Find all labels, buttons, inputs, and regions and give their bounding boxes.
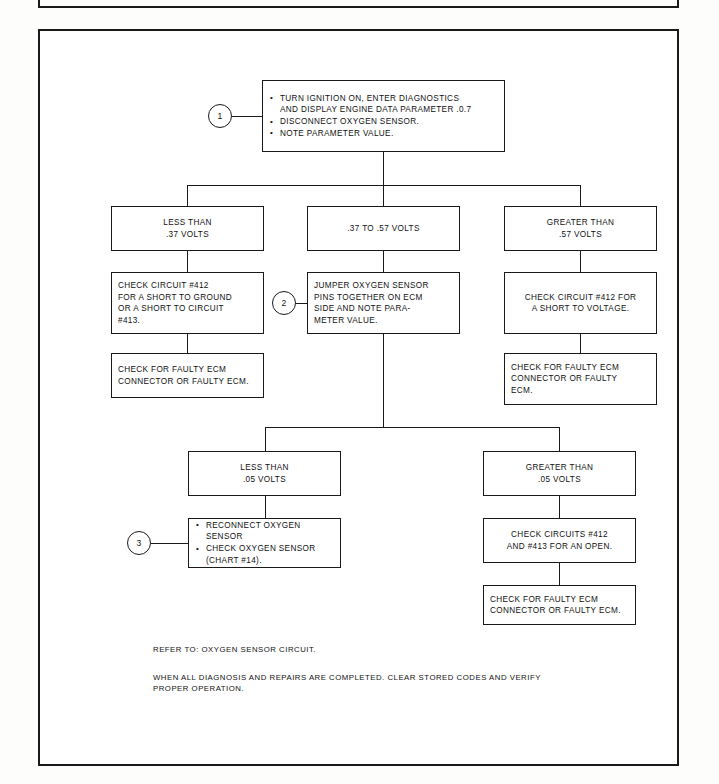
- node-branch-less-than-37-text: LESS THAN .37 VOLTS: [163, 217, 212, 240]
- node-sub-greater-than-05: GREATER THAN .05 VOLTS: [483, 451, 636, 496]
- node-jumper-oxygen-sensor: JUMPER OXYGEN SENSOR PINS TOGETHER ON EC…: [307, 272, 460, 334]
- node-sub-less-than-05-text: LESS THAN .05 VOLTS: [240, 462, 289, 485]
- node-reconnect-oxygen-sensor: RECONNECT OXYGEN SENSOR CHECK OXYGEN SEN…: [188, 518, 341, 568]
- node-check-circuit-412-short-voltage-text: CHECK CIRCUIT #412 FOR A SHORT TO VOLTAG…: [525, 292, 637, 315]
- step-marker-1: 1: [208, 104, 232, 128]
- connector-mid-down: [383, 251, 384, 272]
- connector-high-to-ecm: [580, 334, 581, 353]
- note-refer-to: REFER TO: OXYGEN SENSOR CIRCUIT.: [153, 644, 623, 655]
- connector-bus-level4-left-drop: [265, 427, 266, 451]
- node-faulty-ecm-left-text: CHECK FOR FAULTY ECM CONNECTOR OR FAULTY…: [118, 364, 257, 387]
- step-marker-3: 3: [127, 531, 151, 555]
- node-sub-less-than-05: LESS THAN .05 VOLTS: [188, 451, 341, 496]
- node-reconnect-bullet-1: RECONNECT OXYGEN SENSOR: [196, 520, 333, 543]
- node-faulty-ecm-left: CHECK FOR FAULTY ECM CONNECTOR OR FAULTY…: [111, 353, 264, 398]
- connector-open-to-ecm: [559, 563, 560, 585]
- cropped-box-above: [38, 0, 679, 8]
- connector-marker3-to-action: [151, 543, 188, 544]
- node-reconnect-bullets: RECONNECT OXYGEN SENSOR CHECK OXYGEN SEN…: [196, 520, 333, 566]
- node-start-bullet-3: NOTE PARAMETER VALUE.: [270, 128, 497, 140]
- node-sub-greater-than-05-text: GREATER THAN .05 VOLTS: [526, 462, 594, 485]
- connector-less37-down: [187, 251, 188, 272]
- node-start-bullet-2: DISCONNECT OXYGEN SENSOR.: [270, 116, 497, 128]
- node-faulty-ecm-bottom-text: CHECK FOR FAULTY ECM CONNECTOR OR FAULTY…: [490, 594, 629, 617]
- note-closing: WHEN ALL DIAGNOSIS AND REPAIRS ARE COMPL…: [153, 672, 633, 694]
- node-check-circuits-open-text: CHECK CIRCUITS #412 AND #413 FOR AN OPEN…: [507, 529, 613, 552]
- connector-marker1-to-start: [232, 116, 262, 117]
- node-check-circuit-412-short-voltage: CHECK CIRCUIT #412 FOR A SHORT TO VOLTAG…: [504, 272, 657, 334]
- connector-bus-level1-mid-drop: [383, 185, 384, 206]
- node-reconnect-bullet-2: CHECK OXYGEN SENSOR (CHART #14).: [196, 543, 333, 566]
- chart-frame: 1 TURN IGNITION ON, ENTER DIAGNOSTICS AN…: [38, 29, 679, 766]
- step-marker-1-label: 1: [217, 111, 222, 121]
- node-branch-less-than-37: LESS THAN .37 VOLTS: [111, 206, 264, 251]
- connector-start-down: [383, 152, 384, 185]
- connector-sublow-down: [265, 496, 266, 518]
- connector-bus-level4: [265, 427, 560, 428]
- connector-marker2-to-jumper: [296, 303, 307, 304]
- step-marker-2-label: 2: [281, 298, 286, 308]
- node-check-circuits-open: CHECK CIRCUITS #412 AND #413 FOR AN OPEN…: [483, 518, 636, 563]
- node-start: TURN IGNITION ON, ENTER DIAGNOSTICS AND …: [262, 80, 505, 152]
- connector-mid-to-level3: [383, 334, 384, 427]
- scanned-page: 1 TURN IGNITION ON, ENTER DIAGNOSTICS AN…: [0, 0, 719, 784]
- node-faulty-ecm-right-text: CHECK FOR FAULTY ECM CONNECTOR OR FAULTY…: [511, 362, 650, 397]
- connector-bus-level4-right-drop: [559, 427, 560, 451]
- node-start-bullet-1: TURN IGNITION ON, ENTER DIAGNOSTICS AND …: [270, 93, 497, 116]
- node-faulty-ecm-right: CHECK FOR FAULTY ECM CONNECTOR OR FAULTY…: [504, 353, 657, 405]
- node-check-circuit-412-short-ground: CHECK CIRCUIT #412 FOR A SHORT TO GROUND…: [111, 272, 264, 334]
- node-start-bullets: TURN IGNITION ON, ENTER DIAGNOSTICS AND …: [270, 93, 497, 139]
- connector-bus-level1-right-drop: [580, 185, 581, 206]
- node-jumper-oxygen-sensor-text: JUMPER OXYGEN SENSOR PINS TOGETHER ON EC…: [314, 280, 453, 326]
- node-branch-37-to-57: .37 TO .57 VOLTS: [307, 206, 460, 251]
- connector-bus-level1-left-drop: [187, 185, 188, 206]
- node-branch-greater-than-57: GREATER THAN .57 VOLTS: [504, 206, 657, 251]
- node-faulty-ecm-bottom: CHECK FOR FAULTY ECM CONNECTOR OR FAULTY…: [483, 585, 636, 625]
- node-branch-37-to-57-text: .37 TO .57 VOLTS: [347, 223, 420, 235]
- step-marker-2: 2: [272, 291, 296, 315]
- step-marker-3-label: 3: [136, 538, 141, 548]
- node-check-circuit-412-short-ground-text: CHECK CIRCUIT #412 FOR A SHORT TO GROUND…: [118, 280, 257, 326]
- connector-low-to-ecm: [187, 334, 188, 353]
- connector-greater57-down: [580, 251, 581, 272]
- node-branch-greater-than-57-text: GREATER THAN .57 VOLTS: [547, 217, 615, 240]
- connector-subhigh-down: [559, 496, 560, 518]
